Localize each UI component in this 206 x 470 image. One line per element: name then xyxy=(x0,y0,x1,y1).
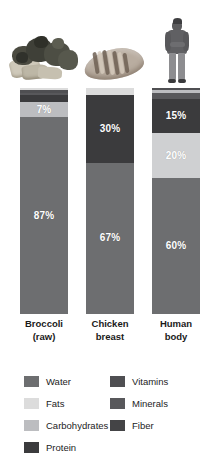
segment-water: 67% xyxy=(86,163,134,314)
legend-column-right: Vitamins Minerals Fiber xyxy=(110,370,168,436)
category-label-chicken-breast: Chicken breast xyxy=(75,318,145,343)
category-labels: Broccoli (raw) Chicken breast Human body xyxy=(0,318,206,360)
legend-item-vitamins[interactable]: Vitamins xyxy=(110,370,168,392)
category-label-line1: Human xyxy=(141,318,206,331)
bars-area: 87% 7% 67% 30% xyxy=(0,88,206,314)
segment-minerals xyxy=(152,93,200,100)
category-label-line1: Broccoli xyxy=(9,318,79,331)
human-body-photo xyxy=(158,18,196,86)
legend-item-fats[interactable]: Fats xyxy=(24,392,108,414)
segment-protein xyxy=(20,95,68,102)
category-label-line1: Chicken xyxy=(75,318,145,331)
category-label-line2: body xyxy=(141,331,206,344)
chicken-breast-photo xyxy=(82,42,146,86)
legend-swatch-protein xyxy=(24,442,39,453)
category-label-broccoli: Broccoli (raw) xyxy=(9,318,79,343)
segment-carbohydrates: 7% xyxy=(20,102,68,118)
legend-label-vitamins: Vitamins xyxy=(132,376,168,387)
segment-value-label: 30% xyxy=(100,124,120,134)
segment-protein: 15% xyxy=(152,99,200,133)
legend-item-fiber[interactable]: Fiber xyxy=(110,414,168,436)
segment-water: 87% xyxy=(20,117,68,314)
legend-label-carbohydrates: Carbohydrates xyxy=(46,420,108,431)
legend-swatch-carbohydrates xyxy=(24,420,39,431)
segment-fats: 20% xyxy=(152,133,200,178)
segment-value-label: 87% xyxy=(34,211,54,221)
legend-item-carbohydrates[interactable]: Carbohydrates xyxy=(24,414,108,436)
legend-label-fats: Fats xyxy=(46,398,64,409)
legend-item-water[interactable]: Water xyxy=(24,370,108,392)
segment-value-label: 7% xyxy=(37,105,52,115)
segment-value-label: 20% xyxy=(166,151,186,161)
legend: Water Fats Carbohydrates Protein Vitamin… xyxy=(0,370,206,468)
photo-row xyxy=(0,0,206,88)
segment-value-label: 60% xyxy=(166,241,186,251)
legend-swatch-fiber xyxy=(110,420,125,431)
category-label-line2: breast xyxy=(75,331,145,344)
legend-item-minerals[interactable]: Minerals xyxy=(110,392,168,414)
legend-label-protein: Protein xyxy=(46,442,76,453)
bar-human-body[interactable]: 60% 20% 15% xyxy=(152,88,200,314)
legend-swatch-vitamins xyxy=(110,376,125,387)
legend-label-fiber: Fiber xyxy=(132,420,154,431)
legend-swatch-water xyxy=(24,376,39,387)
bar-chicken-breast[interactable]: 67% 30% xyxy=(86,88,134,314)
segment-fats xyxy=(86,88,134,95)
legend-column-left: Water Fats Carbohydrates Protein xyxy=(24,370,108,458)
category-label-human-body: Human body xyxy=(141,318,206,343)
legend-label-minerals: Minerals xyxy=(132,398,168,409)
segment-protein: 30% xyxy=(86,95,134,163)
broccoli-photo xyxy=(8,34,80,86)
segment-value-label: 67% xyxy=(100,233,120,243)
category-label-line2: (raw) xyxy=(9,331,79,344)
segment-water: 60% xyxy=(152,178,200,314)
legend-label-water: Water xyxy=(46,376,71,387)
legend-swatch-minerals xyxy=(110,398,125,409)
legend-swatch-fats xyxy=(24,398,39,409)
composition-stacked-bar-figure: 87% 7% 67% 30% xyxy=(0,0,206,470)
bar-broccoli[interactable]: 87% 7% xyxy=(20,88,68,314)
legend-item-protein[interactable]: Protein xyxy=(24,436,108,458)
segment-value-label: 15% xyxy=(166,111,186,121)
